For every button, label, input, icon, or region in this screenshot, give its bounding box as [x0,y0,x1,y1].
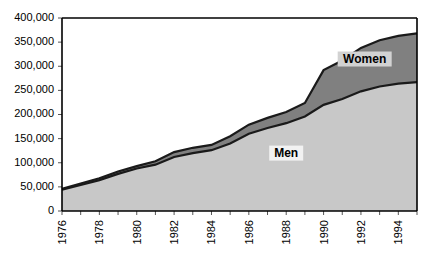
y-axis-label: 400,000 [14,11,54,23]
y-axis-label: 100,000 [14,156,54,168]
x-axis-label: 1984 [205,220,217,244]
legend-label-men: Men [274,146,298,160]
chart-canvas: 400,000350,000300,000250,000200,000150,0… [0,0,442,264]
x-axis-label: 1976 [56,220,68,244]
x-axis-label: 1980 [131,220,143,244]
x-axis-label: 1988 [280,220,292,244]
x-axis-label: 1992 [355,220,367,244]
stacked-area-chart: 400,000350,000300,000250,000200,000150,0… [0,0,442,264]
y-axis-label: 150,000 [14,132,54,144]
y-axis-label: 200,000 [14,107,54,119]
x-axis-label: 1978 [93,220,105,244]
y-axis-label: 50,000 [20,180,54,192]
x-axis-label: 1982 [168,220,180,244]
legend-label-women: Women [343,52,386,66]
x-axis-label: 1994 [392,220,404,244]
x-axis-label: 1990 [318,220,330,244]
x-axis-label: 1986 [243,220,255,244]
y-axis-label: 250,000 [14,83,54,95]
y-axis-label: 300,000 [14,59,54,71]
y-axis-label: 0 [48,204,54,216]
y-axis-label: 350,000 [14,35,54,47]
